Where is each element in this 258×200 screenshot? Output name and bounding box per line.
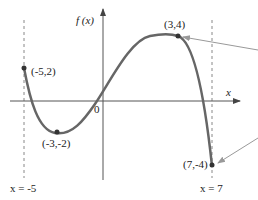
point-label-local-min: (-3,-2) <box>42 137 71 150</box>
point-right-end <box>210 163 215 168</box>
point-local-max <box>176 34 181 39</box>
origin-label: 0 <box>94 103 100 115</box>
point-label-right-end: (7,-4) <box>183 158 208 171</box>
graph-canvas: f (x) x 0 (-5,2) (-3,-2) (3,4) (7,-4) x … <box>0 0 258 200</box>
point-label-local-max: (3,4) <box>164 18 185 31</box>
point-left-end <box>22 66 27 71</box>
arrow-to-max <box>183 37 258 50</box>
y-axis-label: f (x) <box>76 14 94 27</box>
left-boundary-label: x = -5 <box>10 182 37 194</box>
function-graph: f (x) x 0 (-5,2) (-3,-2) (3,4) (7,-4) x … <box>0 0 258 200</box>
point-local-min <box>55 130 60 135</box>
point-label-left-end: (-5,2) <box>31 65 56 78</box>
right-boundary-label: x = 7 <box>200 182 223 194</box>
x-axis-label: x <box>225 86 231 98</box>
arrow-to-right-end <box>218 138 258 163</box>
